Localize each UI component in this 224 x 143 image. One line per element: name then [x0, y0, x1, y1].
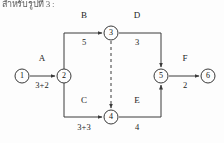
- node-5: [154, 69, 168, 83]
- diagram-screenshot: สำหรับรูปที่ 3 :: [0, 0, 224, 143]
- activity-a-duration: 3+2: [35, 80, 48, 90]
- activity-e-duration: 4: [135, 122, 139, 132]
- node-4: [104, 110, 118, 124]
- activity-b-duration: 5: [82, 37, 86, 47]
- activity-f-duration: 2: [183, 80, 187, 90]
- activity-c-name: C: [81, 95, 87, 105]
- activity-a-name: A: [39, 53, 46, 63]
- activity-d-name: D: [134, 10, 141, 20]
- activity-c-duration: 3+3: [77, 122, 90, 132]
- node-6: [201, 69, 215, 83]
- node-3: [104, 26, 118, 40]
- node-1: [15, 69, 29, 83]
- node-2: [57, 69, 71, 83]
- activity-f-name: F: [182, 53, 187, 63]
- activity-d-duration: 3: [135, 37, 139, 47]
- edge-d: [119, 33, 161, 67]
- activity-b-name: B: [81, 10, 87, 20]
- network-diagram-canvas: [0, 0, 224, 143]
- activity-e-name: E: [134, 95, 140, 105]
